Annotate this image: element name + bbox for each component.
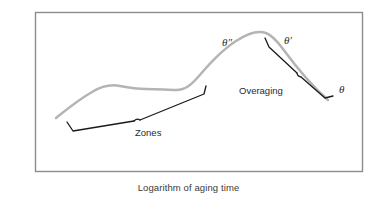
x-axis-title: Logarithm of aging time	[0, 183, 377, 193]
plot-frame	[36, 13, 363, 172]
theta-label: θ	[339, 84, 344, 95]
theta-double-prime-label: θ″	[222, 37, 232, 48]
plot-canvas	[0, 0, 377, 203]
figure-container: Strength or hardness Logarithm of aging …	[0, 0, 377, 203]
theta-prime-label: θ′	[284, 35, 292, 46]
zones-label: Zones	[135, 128, 161, 138]
overaging-label: Overaging	[239, 86, 283, 96]
